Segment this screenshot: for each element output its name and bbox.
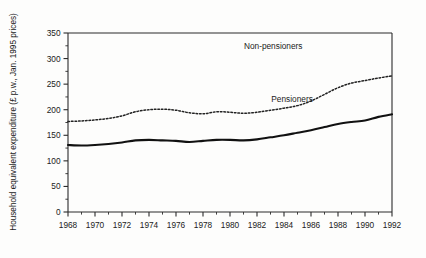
chart-series-labels: Non-pensionersPensioners — [244, 41, 313, 103]
x-tick-label: 1986 — [302, 220, 321, 230]
chart-series — [68, 76, 392, 146]
series-line-non-pensioners — [68, 76, 392, 122]
x-tick-label: 1980 — [221, 220, 240, 230]
y-tick-label: 150 — [47, 130, 61, 140]
y-tick-label: 200 — [47, 105, 61, 115]
x-tick-label: 1970 — [86, 220, 105, 230]
series-label-pensioners: Pensioners — [271, 94, 313, 104]
y-axis-title: Household equivalent expenditure (£ p.w.… — [9, 13, 18, 231]
y-tick-label: 250 — [47, 79, 61, 89]
y-tick-label: 0 — [56, 207, 61, 217]
x-tick-label: 1984 — [275, 220, 294, 230]
y-tick-label: 350 — [47, 28, 61, 38]
x-tick-label: 1968 — [59, 220, 78, 230]
y-tick-label: 50 — [51, 181, 61, 191]
y-tick-label: 100 — [47, 156, 61, 166]
line-chart: 0501001502002503003501968197019721974197… — [0, 0, 426, 258]
x-tick-label: 1982 — [248, 220, 267, 230]
x-tick-label: 1976 — [167, 220, 186, 230]
chart-axes: 0501001502002503003501968197019721974197… — [47, 28, 402, 230]
chart-figure: 0501001502002503003501968197019721974197… — [0, 0, 426, 258]
x-tick-label: 1972 — [113, 220, 132, 230]
x-tick-label: 1990 — [356, 220, 375, 230]
x-tick-label: 1974 — [140, 220, 159, 230]
series-line-pensioners — [68, 114, 392, 145]
series-label-non-pensioners: Non-pensioners — [244, 41, 303, 51]
y-tick-label: 300 — [47, 54, 61, 64]
x-tick-label: 1988 — [329, 220, 348, 230]
x-tick-label: 1978 — [194, 220, 213, 230]
x-tick-label: 1992 — [383, 220, 402, 230]
